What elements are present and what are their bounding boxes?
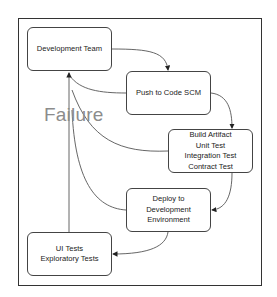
node-development-team: Development Team	[27, 27, 112, 71]
node-label-line: Build Artifact	[185, 130, 237, 141]
node-deploy-to-dev-environment: Deploy to Development Environment	[126, 188, 211, 232]
node-label-line: Unit Test	[185, 141, 237, 152]
node-label-line: Deploy to	[146, 194, 191, 205]
node-push-to-code-scm: Push to Code SCM	[126, 71, 211, 115]
node-label: Push to Code SCM	[136, 88, 201, 99]
edge-push-failure	[70, 76, 126, 93]
node-label-line: UI Tests	[40, 244, 98, 255]
node-build-and-test: Build Artifact Unit Test Integration Tes…	[168, 129, 253, 173]
node-label-line: Exploratory Tests	[40, 254, 98, 265]
node-label-line: Contract Test	[185, 162, 237, 173]
failure-label: Failure	[44, 104, 103, 126]
node-label-line: Integration Test	[185, 151, 237, 162]
edge-dev-to-push	[112, 49, 168, 70]
node-ui-exploratory-tests: UI Tests Exploratory Tests	[27, 232, 112, 276]
node-label-line: Environment	[146, 215, 191, 226]
edge-build-to-deploy	[212, 173, 232, 210]
node-label-line: Development	[146, 205, 191, 216]
node-label: Development Team	[37, 44, 102, 55]
edge-deploy-to-ui	[113, 232, 168, 254]
edge-push-to-build	[211, 93, 232, 128]
